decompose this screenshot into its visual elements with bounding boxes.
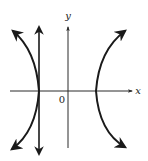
left-branch-curve [12,31,39,149]
hyperbola-figure: y x 0 [0,0,148,161]
graph-canvas: y x 0 [0,0,148,161]
y-axis-label: y [64,10,71,21]
origin-label: 0 [59,94,65,105]
x-axis-label: x [135,85,141,96]
right-branch-curve [96,31,125,147]
